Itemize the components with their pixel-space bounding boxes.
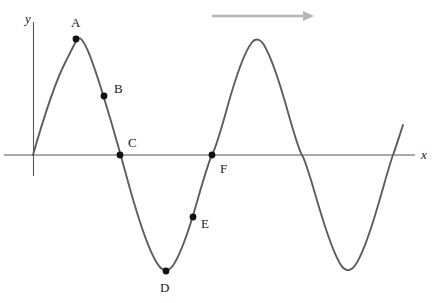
point-B-marker (101, 93, 108, 100)
wave-direction-arrow (212, 11, 314, 21)
point-label-e: E (201, 217, 209, 230)
point-label-a: A (71, 16, 80, 29)
point-E-marker (190, 214, 197, 221)
point-label-c: C (128, 136, 137, 149)
sine-curve (33, 38, 403, 270)
point-D-marker (163, 268, 170, 275)
figure-canvas: y x A B C D E F (0, 0, 440, 303)
point-C-marker (117, 152, 124, 159)
point-label-d: D (160, 281, 169, 294)
y-axis-label: y (25, 12, 31, 25)
point-label-f: F (220, 162, 227, 175)
point-label-b: B (114, 82, 123, 95)
wave-figure (0, 0, 440, 303)
x-axis-label: x (421, 148, 427, 161)
point-F-marker (209, 152, 216, 159)
point-A-marker (73, 36, 80, 43)
